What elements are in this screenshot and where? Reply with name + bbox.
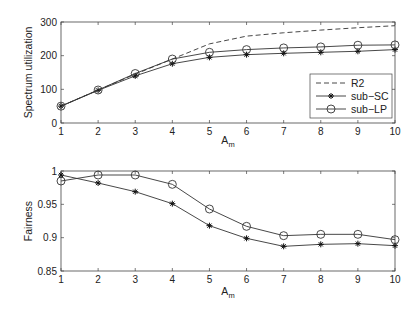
y-tick-label: 0.9	[43, 232, 57, 243]
y-axis-label: Fairness	[22, 201, 34, 241]
x-tick-label: 5	[207, 274, 213, 285]
x-tick-label: 3	[132, 274, 138, 285]
y-tick-label: 300	[40, 17, 57, 28]
x-tick-label: 7	[281, 274, 287, 285]
x-axis-label-main: A	[221, 285, 228, 297]
y-tick-label: 0.85	[38, 266, 58, 277]
data-point-star	[392, 47, 398, 53]
x-axis-label-subscript: m	[228, 291, 234, 300]
y-tick-label: 0.95	[38, 199, 58, 210]
x-tick-label: 9	[355, 126, 361, 137]
data-point-star	[318, 241, 324, 247]
x-tick-label: 1	[58, 274, 64, 285]
legend: R2sub−SCsub−LP	[310, 74, 392, 118]
y-tick-label: 200	[40, 50, 57, 61]
series-line	[61, 175, 395, 240]
y-tick-label: 100	[40, 84, 57, 95]
x-tick-label: 6	[244, 126, 250, 137]
figure: 123456789100100200300AmSpectrum utilizat…	[0, 0, 420, 314]
x-axis-label: Am	[221, 134, 234, 149]
y-tick-label: 0	[51, 118, 57, 129]
x-tick-label: 9	[355, 274, 361, 285]
x-tick-label: 1	[58, 126, 64, 137]
x-tick-label: 5	[207, 126, 213, 137]
y-tick-label: 1	[51, 166, 57, 177]
data-point-star	[169, 201, 175, 207]
legend-label: R2	[351, 77, 365, 89]
data-point-star	[169, 61, 175, 67]
x-axis-label-subscript: m	[228, 140, 234, 149]
plot-fairness: 123456789100.850.90.951AmFairness	[22, 166, 401, 301]
x-tick-label: 10	[389, 126, 401, 137]
data-point-star	[132, 189, 138, 195]
x-tick-label: 4	[170, 274, 176, 285]
y-axis-label: Spectrum utilization	[22, 27, 34, 119]
legend-label: sub−SC	[351, 90, 389, 102]
plot-spectrum-utilization: 123456789100100200300AmSpectrum utilizat…	[22, 17, 401, 150]
x-tick-label: 7	[281, 126, 287, 137]
data-point-star	[206, 223, 212, 229]
x-tick-label: 8	[318, 274, 324, 285]
x-axis-label-main: A	[221, 134, 228, 146]
x-tick-label: 6	[244, 274, 250, 285]
data-point-star	[355, 241, 361, 247]
series-line	[61, 175, 395, 246]
legend-label: sub−LP	[351, 103, 387, 115]
series-sub-sc	[58, 172, 398, 249]
x-tick-label: 2	[95, 274, 101, 285]
x-tick-label: 10	[389, 274, 401, 285]
x-tick-label: 2	[95, 126, 101, 137]
series-sub-lp	[57, 171, 399, 244]
data-point-star	[244, 235, 250, 241]
data-point-star	[281, 243, 287, 249]
x-tick-label: 3	[132, 126, 138, 137]
x-tick-label: 4	[170, 126, 176, 137]
x-tick-label: 8	[318, 126, 324, 137]
x-axis-label: Am	[221, 285, 234, 300]
data-point-star	[95, 180, 101, 186]
